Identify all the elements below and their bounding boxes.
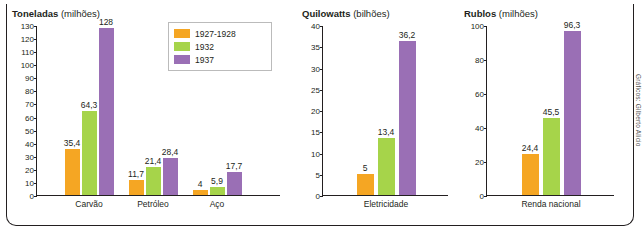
y-tick-mark <box>34 104 37 105</box>
legend-label: 1937 <box>195 55 214 65</box>
chart-panel-rublos: Rublos (milhões) 02040608010024,445,596,… <box>462 6 622 216</box>
y-tick-mark <box>320 196 323 197</box>
legend-item: 1932 <box>174 40 265 53</box>
bar-value-label: 45,5 <box>543 107 560 117</box>
legend: 1927-192819321937 <box>168 22 272 71</box>
panel-title-text: Toneladas <box>12 8 58 19</box>
category-label: Renda nacional <box>521 199 580 209</box>
credit-text: Gráficos: Gilberto Alicio <box>635 74 642 147</box>
y-tick-mark <box>34 78 37 79</box>
bar: 5 <box>357 174 374 195</box>
y-tick-mark <box>484 60 487 61</box>
bar-value-label: 128 <box>99 17 113 27</box>
bar: 36,2 <box>399 41 416 195</box>
bar-value-label: 21,4 <box>145 156 162 166</box>
category-label: Eletricidade <box>364 199 408 209</box>
category-label: Carvão <box>75 199 102 209</box>
y-tick-mark <box>484 128 487 129</box>
y-tick-mark <box>34 144 37 145</box>
bar: 17,7 <box>227 172 242 195</box>
y-tick-mark <box>484 196 487 197</box>
bar: 13,4 <box>378 138 395 195</box>
y-tick-mark <box>484 94 487 95</box>
y-tick-mark <box>34 157 37 158</box>
bar-value-label: 64,3 <box>81 100 98 110</box>
y-tick-mark <box>34 26 37 27</box>
legend-swatch <box>174 55 190 64</box>
bar: 4 <box>193 190 208 195</box>
bar: 21,4 <box>146 167 161 195</box>
y-tick-mark <box>484 162 487 163</box>
y-tick-mark <box>484 26 487 27</box>
bar: 11,7 <box>129 180 144 195</box>
panel-title-toneladas: Toneladas (milhões) <box>12 8 100 19</box>
bar: 128 <box>99 28 114 195</box>
y-tick-mark <box>34 91 37 92</box>
y-tick-mark <box>34 183 37 184</box>
bar: 45,5 <box>543 118 560 195</box>
y-tick-mark <box>320 47 323 48</box>
y-tick-mark <box>34 65 37 66</box>
bar: 24,4 <box>522 154 539 195</box>
panel-title-quilowatts: Quilowatts (bilhões) <box>302 8 390 19</box>
bar-value-label: 4 <box>198 179 203 189</box>
y-tick-mark <box>34 170 37 171</box>
bar-value-label: 36,2 <box>399 30 416 40</box>
y-tick-mark <box>34 39 37 40</box>
bar-value-label: 24,4 <box>522 143 539 153</box>
bar: 35,4 <box>65 149 80 195</box>
y-tick-mark <box>320 154 323 155</box>
bar-value-label: 96,3 <box>564 20 581 30</box>
y-tick-mark <box>320 132 323 133</box>
bar: 28,4 <box>163 158 178 195</box>
bar: 5,9 <box>210 187 225 195</box>
panel-title-text: Rublos <box>464 8 496 19</box>
legend-item: 1937 <box>174 53 265 66</box>
legend-label: 1932 <box>195 42 214 52</box>
y-tick-mark <box>34 52 37 53</box>
chart-panel-quilowatts: Quilowatts (bilhões) 0510152025303540513… <box>300 6 452 216</box>
bar-value-label: 11,7 <box>128 169 144 179</box>
bar-value-label: 28,4 <box>162 147 179 157</box>
bar-value-label: 5,9 <box>211 176 223 186</box>
y-tick-mark <box>320 111 323 112</box>
panel-title-rublos: Rublos (milhões) <box>464 8 538 19</box>
y-tick-mark <box>320 69 323 70</box>
y-tick-mark <box>320 26 323 27</box>
y-tick-mark <box>34 131 37 132</box>
legend-swatch <box>174 29 190 38</box>
bar-value-label: 17,7 <box>226 161 243 171</box>
bar-value-label: 35,4 <box>64 138 81 148</box>
panel-title-text: Quilowatts <box>302 8 351 19</box>
bar: 96,3 <box>564 31 581 195</box>
bar-value-label: 13,4 <box>378 127 395 137</box>
axis-quilowatts: 0510152025303540513,436,2Eletricidade <box>322 26 448 196</box>
y-tick-mark <box>320 90 323 91</box>
y-tick-mark <box>34 196 37 197</box>
legend-swatch <box>174 42 190 51</box>
category-label: Petróleo <box>137 199 169 209</box>
bar-value-label: 5 <box>363 163 368 173</box>
y-tick-mark <box>320 175 323 176</box>
axis-rublos: 02040608010024,445,596,3Renda nacional <box>486 26 614 196</box>
legend-item: 1927-1928 <box>174 27 265 40</box>
panel-title-unit: (milhões) <box>499 8 538 19</box>
category-label: Aço <box>210 199 225 209</box>
y-tick-mark <box>34 118 37 119</box>
panel-title-unit: (bilhões) <box>353 8 389 19</box>
panel-title-unit: (milhões) <box>61 8 100 19</box>
legend-label: 1927-1928 <box>195 29 236 39</box>
bar: 64,3 <box>82 111 97 195</box>
